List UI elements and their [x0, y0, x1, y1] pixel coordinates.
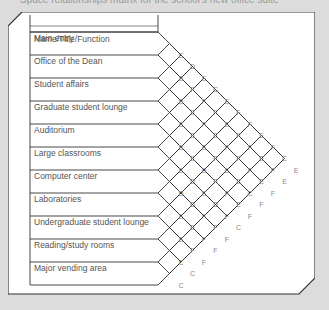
relationship-code: E	[179, 213, 184, 220]
relationship-code: E	[225, 98, 230, 105]
relationship-code: E	[179, 236, 184, 243]
relationship-code: C	[247, 190, 252, 197]
relationship-code: C	[236, 224, 241, 231]
relationship-code: E	[282, 178, 287, 185]
relationship-code: F	[236, 109, 240, 116]
relationship-code: F	[248, 167, 252, 174]
item-label: Student affairs	[30, 79, 89, 90]
relationship-code: E	[190, 155, 195, 162]
diagram-frame: CDECEFFEFCEBFFFEFFEFEBEFEFFFEFEEEFEECFBE…	[8, 12, 315, 300]
relationship-code: E	[202, 75, 207, 82]
relationship-code: E	[190, 109, 195, 116]
relationship-code: F	[225, 190, 229, 197]
relationship-code: E	[236, 201, 241, 208]
relationship-code: E	[213, 132, 218, 139]
relationship-code: B	[179, 75, 184, 82]
relationship-code: F	[225, 236, 229, 243]
relationship-code: D	[201, 167, 206, 174]
relationship-code: F	[236, 155, 240, 162]
relationship-code: F	[202, 213, 206, 220]
relationship-code: F	[190, 247, 194, 254]
relationship-code: F	[202, 98, 206, 105]
relationship-code: E	[225, 167, 230, 174]
relationship-code: E	[179, 121, 184, 128]
item-label: Large classrooms	[30, 148, 101, 159]
relationship-code: D	[213, 201, 218, 208]
relationship-code: E	[225, 121, 230, 128]
item-label: Undergraduate student lounge	[30, 217, 149, 228]
relationship-code: D	[190, 201, 195, 208]
relationship-code: F	[213, 247, 217, 254]
relationship-code: F	[213, 109, 217, 116]
relationship-code: B	[179, 98, 184, 105]
relationship-code: F	[271, 167, 275, 174]
relationship-code: F	[248, 213, 252, 220]
relationship-code: C	[190, 270, 195, 277]
relationship-code: C	[213, 86, 218, 93]
relationship-code: F	[190, 86, 194, 93]
relationship-code: F	[259, 201, 263, 208]
relationship-code: E	[190, 224, 195, 231]
item-label: Major vending area	[30, 263, 107, 274]
item-label: Auditorium	[30, 125, 75, 136]
relationship-code: C	[178, 52, 183, 59]
relationship-code: C	[178, 282, 183, 289]
relationship-code: F	[225, 144, 229, 151]
relationship-code: C	[178, 259, 183, 266]
relationship-code: E	[202, 190, 207, 197]
relationship-code: F	[202, 259, 206, 266]
relationship-code: E	[259, 155, 264, 162]
relationship-code: F	[213, 224, 217, 231]
relationship-code: F	[202, 121, 206, 128]
relationship-code: B	[179, 144, 184, 151]
relationship-code: F	[271, 190, 275, 197]
caption: Space relationships matrix for the schoo…	[20, 0, 279, 5]
relationship-code: E	[259, 178, 264, 185]
item-label: Graduate student lounge	[30, 102, 128, 113]
relationship-code: E	[294, 167, 299, 174]
relationship-code: D	[178, 190, 183, 197]
relationship-code: F	[248, 121, 252, 128]
item-label: Office of the Dean	[30, 56, 102, 67]
relationship-code: E	[202, 144, 207, 151]
item-label: Computer center	[30, 171, 97, 182]
relationship-code: E	[259, 132, 264, 139]
item-label: Main entry	[30, 33, 74, 44]
relationship-code: D	[190, 63, 195, 70]
item-label: Laboratories	[30, 194, 81, 205]
relationship-code: D	[190, 178, 195, 185]
relationship-code: F	[225, 213, 229, 220]
item-label: Reading/study rooms	[30, 240, 114, 251]
relationship-code: F	[236, 132, 240, 139]
relationship-code: F	[271, 144, 275, 151]
relationship-code: E	[179, 167, 184, 174]
relationship-code: F	[202, 236, 206, 243]
relationship-code: F	[213, 155, 217, 162]
relationship-code: C	[282, 155, 287, 162]
relationship-code: F	[213, 178, 217, 185]
relationship-code: E	[190, 132, 195, 139]
relationship-code: E	[236, 178, 241, 185]
relationship-code: F	[248, 144, 252, 151]
